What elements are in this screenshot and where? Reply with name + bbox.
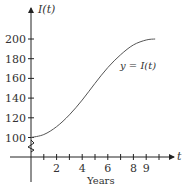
y-tick-label: 120 [5,112,26,125]
x-tick-label: 4 [79,162,86,175]
x-tick-label: 8 [130,162,137,175]
y-tick-label: 140 [5,92,26,105]
y-ticks: 100120140160180200 [5,33,34,145]
x-axis-label: Years [86,175,115,186]
y-tick-label: 180 [5,53,26,66]
y-axis-label: I(t) [37,3,55,16]
x-tick-label: 2 [53,162,60,175]
y-tick-label: 160 [5,72,26,85]
x-axis-symbol: t [177,150,182,163]
chart: 100120140160180200 24689 I(t) t Years y … [0,0,187,188]
y-tick-label: 200 [5,33,26,46]
y-tick-label: 100 [5,132,26,145]
x-tick-label: 6 [104,162,111,175]
x-tick-label: 9 [143,162,150,175]
curve-label: y = I(t) [119,60,156,71]
curve-line [31,39,155,138]
